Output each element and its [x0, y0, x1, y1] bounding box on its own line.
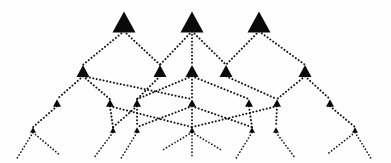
tree-edge [226, 31, 259, 65]
tree-edge [160, 31, 192, 65]
triangle-node [186, 65, 199, 77]
triangle-node [245, 99, 253, 106]
tree-edge [113, 106, 137, 127]
triangle-node [248, 11, 271, 32]
tree-edge [330, 106, 355, 127]
tree-edge [192, 31, 226, 65]
tree-edge [110, 106, 192, 127]
triangle-node [188, 99, 196, 106]
triangle-node [110, 127, 116, 133]
tree-edge [192, 106, 252, 127]
leaf-stub-edge [33, 132, 59, 154]
tree-edge [276, 106, 277, 127]
tree-edge [305, 76, 330, 99]
leaf-stub-edge [276, 132, 294, 156]
tree-edge [259, 31, 305, 65]
triangle-tree-figure [0, 0, 391, 163]
leaf-stub-edge [192, 132, 222, 150]
triangle-node [133, 99, 141, 106]
triangle-node [113, 11, 136, 32]
edges-layer [33, 31, 355, 127]
tree-edge [192, 106, 277, 127]
diagram-canvas [0, 0, 391, 163]
leaf-stubs-layer [17, 132, 371, 158]
leaf-stub-edge [162, 132, 192, 150]
leaf-stub-edge [327, 132, 355, 154]
leaf-stub-edge [95, 132, 113, 156]
leaf-stub-edge [355, 132, 371, 158]
triangle-node [249, 127, 255, 133]
triangle-node [134, 127, 140, 133]
leaf-stub-edge [236, 132, 252, 158]
tree-edge [83, 76, 192, 99]
tree-edge [137, 106, 192, 127]
tree-edge [249, 106, 252, 127]
tree-edge [57, 76, 83, 99]
tree-edge [124, 31, 160, 65]
triangle-node [326, 99, 334, 106]
nodes-layer [30, 11, 358, 132]
triangle-node [30, 127, 36, 133]
triangle-node [273, 99, 281, 106]
tree-edge [110, 106, 113, 127]
tree-edge [137, 76, 160, 99]
triangle-node [189, 127, 195, 133]
triangle-node [77, 65, 90, 77]
triangle-node [181, 11, 204, 32]
triangle-node [220, 65, 233, 77]
triangle-node [106, 99, 114, 106]
tree-edge [33, 106, 57, 127]
tree-edge [226, 76, 277, 99]
tree-edge [137, 76, 192, 99]
triangle-node [352, 127, 358, 133]
triangle-node [299, 65, 312, 77]
leaf-stub-edge [121, 132, 137, 158]
tree-edge [277, 76, 305, 99]
tree-edge [192, 76, 249, 99]
triangle-node [53, 99, 61, 106]
triangle-node [273, 127, 279, 133]
leaf-stub-edge [17, 132, 33, 158]
triangle-node [154, 65, 167, 77]
tree-edge [83, 31, 124, 65]
